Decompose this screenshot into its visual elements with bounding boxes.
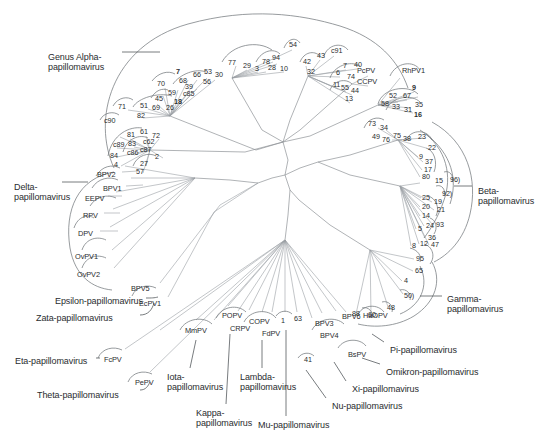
species-cluster-arcs — [100, 39, 453, 318]
genus-label-line2: papillomavirus — [447, 304, 503, 314]
type-number-57: 57 — [136, 168, 144, 176]
type-number-69: 69 — [152, 104, 160, 112]
genus-label-eta: Eta-papillomavirus — [15, 356, 87, 366]
type-number-74: 74 — [347, 73, 355, 81]
type-number-2: 2 — [155, 153, 159, 161]
type-number-70: 70 — [157, 80, 165, 88]
type-number-56: 56 — [203, 78, 211, 86]
type-number-65: 65 — [415, 267, 423, 275]
genus-label-line1: Theta-papillomavirus — [37, 390, 119, 400]
tree-center-node — [258, 142, 318, 200]
taxon-label-bpv1: BPV1 — [103, 185, 122, 194]
genus-label-zata: Zata-papillomavirus — [36, 313, 113, 323]
type-number-95: 95 — [416, 255, 424, 263]
genus-label-gamma: Gamma-papillomavirus — [447, 294, 503, 315]
type-number-82: 82 — [137, 112, 145, 120]
type-number-80: 80 — [422, 173, 430, 181]
genus-label-line1: Eta-papillomavirus — [15, 356, 87, 366]
genus-label-line2: papillomavirus — [167, 382, 223, 392]
type-number-23: 23 — [418, 133, 426, 141]
type-number-14: 14 — [422, 212, 430, 220]
type-number-88: 88 — [352, 310, 360, 318]
type-number-60: 60, — [368, 311, 378, 319]
type-number-63: 63 — [294, 315, 302, 323]
type-number-22: 22 — [428, 144, 436, 152]
genus-label-line1: Lambda- — [240, 372, 296, 382]
type-number-34: 34 — [380, 124, 388, 132]
type-number-96: 96) — [450, 176, 460, 184]
taxon-label-rhpv1: RhPV1 — [402, 67, 425, 76]
type-number-3: 3 — [255, 65, 259, 73]
taxon-label-dpv: DPV — [78, 230, 93, 239]
genus-label-line2: papillomavirus — [196, 418, 252, 428]
type-number-48: 48 — [387, 304, 395, 312]
taxon-label-fdpv: FdPV — [262, 330, 280, 339]
type-number-61: 61 — [140, 128, 148, 136]
taxon-label-popv: POPV — [222, 312, 242, 321]
genus-label-theta: Theta-papillomavirus — [37, 390, 119, 400]
type-number-5: 5 — [418, 225, 422, 233]
xi-leader — [334, 362, 346, 381]
type-number-6: 6 — [336, 69, 340, 77]
taxon-label-ecpv1: EcPV1 — [139, 300, 161, 309]
type-number-33: 33 — [392, 103, 400, 111]
genus-label-kappa: Kappa-papillomavirus — [196, 408, 252, 429]
type-number-15: 15 — [435, 177, 443, 185]
phylogenetic-tree-figure: Genus Alpha-papillomavirusDelta-papillom… — [0, 0, 549, 439]
taxon-label-ovpv2: OvPV2 — [77, 271, 100, 280]
type-number-38: 38 — [403, 135, 411, 143]
kappa-leader — [226, 334, 230, 404]
type-number-29: 29 — [243, 62, 251, 70]
type-number-50: 50) — [404, 292, 414, 300]
genus-label-nu: Nu-papillomavirus — [332, 401, 402, 411]
genus-label-mu: Mu-papillomavirus — [258, 420, 329, 430]
type-number-94: 94 — [272, 54, 280, 62]
type-number-92: 92) — [442, 190, 452, 198]
genus-label-beta: Beta-papillomavirus — [478, 186, 534, 207]
genus-label-iota: Iota-papillomavirus — [167, 372, 223, 393]
type-number-51: 51 — [140, 102, 148, 110]
genus-label-line1: Pi-papillomavirus — [390, 345, 457, 355]
type-number-35: 35 — [415, 101, 423, 109]
type-number-18: 18 — [174, 98, 182, 106]
taxon-label-copv: COPV — [249, 318, 270, 327]
taxon-label-crpv: CRPV — [230, 325, 250, 334]
type-number-c91: c91 — [331, 47, 342, 55]
lower-branch-fan — [125, 190, 346, 372]
type-number-c85: c85 — [183, 90, 194, 98]
taxon-label-ovpv1: OvPV1 — [75, 253, 98, 262]
taxon-label-eepv: EEPV — [85, 195, 104, 204]
taxon-label-bpv2: BPV2 — [97, 171, 116, 180]
genus-label-line1: Mu-papillomavirus — [258, 420, 329, 430]
iota-leader — [190, 340, 196, 368]
taxon-label-bpv3: BPV3 — [315, 320, 334, 329]
genus-label-pi: Pi-papillomavirus — [390, 345, 457, 355]
genus-label-line2: papillomavirus — [14, 192, 70, 202]
type-number-4: 4 — [404, 277, 408, 285]
taxon-label-bspv: BsPV — [348, 351, 366, 360]
taxon-label-fcpv: FcPV — [104, 356, 122, 365]
genus-label-line1: Omikron-papillomavirus — [386, 367, 478, 377]
genus-label-line1: Zata-papillomavirus — [36, 313, 113, 323]
genus-label-lambda: Lambda-papillomavirus — [240, 372, 296, 393]
genus-label-line2: papillomavirus — [48, 62, 104, 72]
type-number-58: 58 — [381, 100, 389, 108]
type-number-8: 8 — [412, 242, 416, 250]
genus-label-line1: Delta- — [14, 182, 70, 192]
type-number-42: 42 — [303, 58, 311, 66]
genus-label-delta: Delta-papillomavirus — [14, 182, 70, 203]
type-number-93: 93 — [436, 221, 444, 229]
taxon-label-mmpv: MmPV — [185, 327, 207, 336]
type-number-30: 30 — [215, 71, 223, 79]
taxon-label-bpv4: BPV4 — [320, 332, 339, 341]
type-number-10: 10 — [280, 65, 288, 73]
type-number-54: 54 — [289, 41, 297, 49]
genus-label-line2: papillomavirus — [478, 196, 534, 206]
type-number-11: 11 — [333, 81, 340, 89]
type-number-76: 76 — [382, 136, 390, 144]
type-number-16: 16 — [414, 111, 422, 119]
genus-label-alpha: Genus Alpha-papillomavirus — [48, 52, 104, 73]
type-number-c86: c86 — [127, 149, 138, 157]
genus-label-omikron: Omikron-papillomavirus — [386, 367, 478, 377]
type-number-67: 67 — [403, 92, 411, 100]
